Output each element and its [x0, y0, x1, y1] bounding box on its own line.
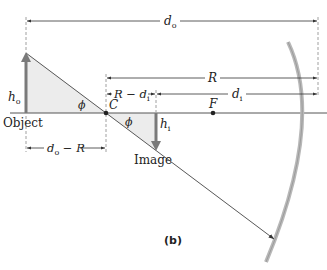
label-h-o: ho: [8, 90, 21, 106]
label-d-o-minus-R: do − R: [47, 141, 85, 157]
concave-mirror-diagram: do R R − di di do − R ho hi ϕ ϕ C F Obje…: [0, 0, 327, 270]
focal-point: [211, 111, 216, 116]
center-of-curvature-point: [104, 111, 109, 116]
label-d-o: do: [164, 14, 177, 30]
dimension-lines: [27, 21, 317, 148]
label-d-i: di: [232, 87, 243, 103]
label-phi-right: ϕ: [125, 116, 133, 129]
concave-mirror: [266, 42, 302, 262]
label-R: R: [207, 71, 217, 85]
label-phi-left: ϕ: [78, 99, 86, 112]
label-F: F: [208, 97, 218, 111]
label-image: Image: [134, 153, 172, 167]
label-C: C: [109, 98, 118, 112]
dashed-guides: [26, 17, 318, 152]
panel-label: (b): [164, 234, 182, 247]
label-object: Object: [3, 116, 43, 130]
label-h-i: hi: [160, 117, 171, 133]
label-R-minus-d-i: R − di: [113, 87, 150, 103]
